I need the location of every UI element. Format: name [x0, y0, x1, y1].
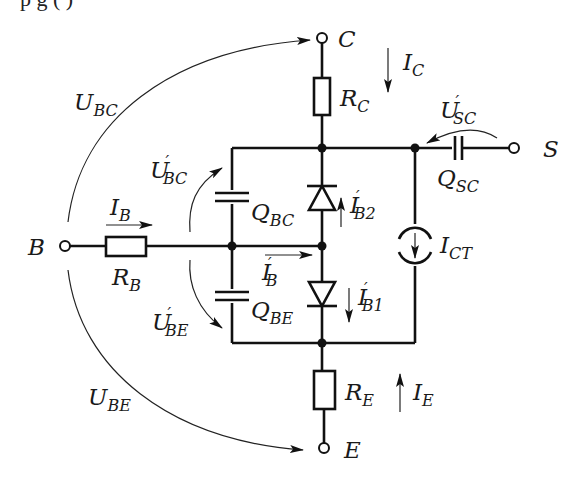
collector-branch	[314, 33, 330, 148]
capacitor-qsc	[452, 136, 519, 160]
ib-prime-label: I′B	[261, 254, 278, 290]
resistor-rb	[106, 237, 146, 256]
transistor-equivalent-circuit: p g ( ) C RC IC S QSC U′SC B RB IB	[0, 0, 579, 481]
ube-prime-label: U′BE	[152, 304, 189, 340]
ict-label: ICT	[439, 232, 473, 263]
resistor-rc	[314, 78, 330, 115]
current-source-ict	[396, 224, 434, 266]
diode-be	[307, 282, 337, 306]
resistor-re	[314, 371, 335, 409]
capacitor-qbc	[215, 190, 249, 204]
qbe-label: QBE	[251, 297, 294, 328]
terminal-c	[317, 33, 327, 43]
rc-label: RC	[339, 85, 370, 116]
ib-label: IB	[109, 194, 131, 225]
terminal-b	[60, 241, 70, 251]
ib2-label: I′B2	[349, 187, 376, 223]
re-label: RE	[344, 379, 374, 410]
capacitor-qbe	[215, 289, 249, 303]
ubc-prime-label: U′BC	[150, 152, 187, 188]
ic-label: IC	[402, 49, 424, 80]
terminal-s-label: S	[543, 136, 559, 162]
terminal-s	[509, 143, 519, 153]
arrow-ubc	[68, 40, 310, 222]
qbc-label: QBC	[251, 199, 294, 230]
ubc-label: UBC	[74, 89, 118, 120]
terminal-e	[319, 443, 329, 453]
ie-label: IE	[412, 379, 434, 410]
cropped-caption: p g ( )	[20, 0, 73, 11]
usc-label: U′SC	[440, 92, 476, 128]
rb-label: RB	[111, 264, 141, 295]
ube-label: UBE	[88, 384, 131, 415]
diode-bc	[307, 186, 337, 210]
qsc-label: QSC	[437, 165, 479, 196]
terminal-b-label: B	[27, 234, 45, 260]
terminal-e-label: E	[343, 437, 361, 463]
terminal-c-label: C	[338, 26, 356, 52]
ib1-label: I′B1	[357, 279, 384, 315]
